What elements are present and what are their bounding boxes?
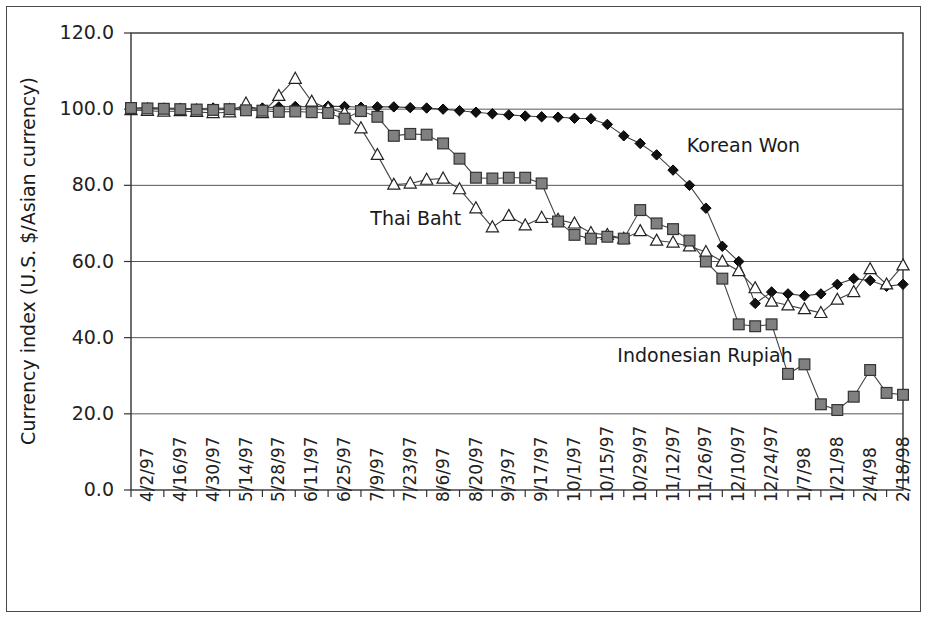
- data-point-square: [421, 129, 432, 140]
- y-axis-tick-label: 80.0: [40, 173, 114, 195]
- data-point-square: [684, 235, 695, 246]
- data-point-square: [503, 172, 514, 183]
- x-axis-tick-label: 5/14/97: [236, 436, 256, 502]
- data-point-square: [668, 224, 679, 235]
- data-point-diamond: [602, 119, 612, 129]
- data-point-diamond: [849, 273, 859, 283]
- data-point-diamond: [520, 111, 530, 121]
- data-point-triangle: [371, 148, 383, 159]
- y-axis-tick-label: 60.0: [40, 250, 114, 272]
- y-axis-title: Currency index (U.S. $/Asian currency): [17, 51, 39, 471]
- x-axis-tick-label: 12/10/97: [728, 426, 748, 502]
- data-point-diamond: [635, 138, 645, 148]
- data-point-square: [438, 138, 449, 149]
- data-point-diamond: [865, 275, 875, 285]
- data-point-diamond: [389, 102, 399, 112]
- data-point-diamond: [372, 102, 382, 112]
- data-point-square: [651, 218, 662, 229]
- data-point-square: [848, 391, 859, 402]
- data-point-square: [372, 111, 383, 122]
- data-point-square: [536, 178, 547, 189]
- data-point-square: [832, 405, 843, 416]
- x-axis-tick-label: 7/23/97: [400, 436, 420, 502]
- data-point-triangle: [897, 259, 909, 270]
- data-point-square: [783, 368, 794, 379]
- data-point-square: [339, 113, 350, 124]
- data-point-square: [158, 103, 169, 114]
- data-point-square: [290, 106, 301, 117]
- data-point-diamond: [471, 107, 481, 117]
- data-point-square: [142, 103, 153, 114]
- data-point-square: [586, 233, 597, 244]
- series-annotation-indonesian-rupiah: Indonesian Rupiah: [617, 344, 792, 366]
- x-axis-tick-label: 8/6/97: [433, 447, 453, 502]
- data-point-diamond: [438, 104, 448, 114]
- data-point-square: [799, 359, 810, 370]
- data-point-diamond: [454, 105, 464, 115]
- data-point-square: [520, 172, 531, 183]
- data-point-square: [618, 233, 629, 244]
- series-annotation-thai-baht: Thai Baht: [370, 207, 461, 229]
- x-axis-tick-label: 7/9/97: [367, 447, 387, 502]
- data-point-triangle: [306, 95, 318, 106]
- data-point-square: [700, 256, 711, 267]
- data-point-diamond: [586, 113, 596, 123]
- data-point-square: [454, 153, 465, 164]
- x-axis-tick-label: 11/12/97: [663, 426, 683, 502]
- data-point-square: [388, 130, 399, 141]
- series-annotation-korean-won: Korean Won: [687, 134, 800, 156]
- x-axis-tick-label: 9/17/97: [531, 436, 551, 502]
- data-point-square: [175, 104, 186, 115]
- data-point-diamond: [421, 103, 431, 113]
- data-point-square: [191, 104, 202, 115]
- data-point-triangle: [766, 295, 778, 306]
- x-axis-tick-label: 8/20/97: [466, 436, 486, 502]
- data-point-triangle: [503, 209, 515, 220]
- x-axis-tick-label: 4/30/97: [203, 436, 223, 502]
- data-point-square: [733, 319, 744, 330]
- data-point-square: [569, 229, 580, 240]
- data-point-square: [602, 231, 613, 242]
- data-point-diamond: [898, 279, 908, 289]
- data-point-square: [815, 399, 826, 410]
- data-point-square: [487, 173, 498, 184]
- y-axis-tick-label: 100.0: [40, 97, 114, 119]
- y-axis-tick-label: 120.0: [40, 21, 114, 43]
- x-axis-tick-label: 4/2/97: [137, 447, 157, 502]
- data-point-square: [273, 106, 284, 117]
- data-point-triangle: [848, 286, 860, 297]
- series-korean-won: [126, 101, 908, 309]
- x-axis-tick-label: 2/18/98: [893, 436, 913, 502]
- x-axis-tick-label: 9/3/97: [498, 447, 518, 502]
- data-point-diamond: [799, 291, 809, 301]
- data-point-diamond: [536, 112, 546, 122]
- data-point-triangle: [831, 293, 843, 304]
- data-point-diamond: [750, 298, 760, 308]
- data-point-diamond: [405, 102, 415, 112]
- data-point-triangle: [355, 122, 367, 133]
- data-point-square: [306, 107, 317, 118]
- x-axis-tick-label: 12/24/97: [761, 426, 781, 502]
- data-point-triangle: [519, 219, 531, 230]
- x-axis-tick-label: 4/16/97: [170, 436, 190, 502]
- data-point-square: [898, 389, 909, 400]
- data-point-triangle: [716, 255, 728, 266]
- x-axis-tick-label: 1/7/98: [794, 447, 814, 502]
- data-point-triangle: [651, 234, 663, 245]
- data-point-square: [208, 105, 219, 116]
- x-axis-tick-label: 10/1/97: [564, 436, 584, 502]
- data-point-triangle: [388, 178, 400, 189]
- data-point-square: [126, 103, 137, 114]
- data-point-square: [257, 105, 268, 116]
- x-axis-tick-label: 6/11/97: [301, 436, 321, 502]
- y-axis-tick-label: 0.0: [40, 478, 114, 500]
- data-point-triangle: [421, 173, 433, 184]
- data-point-square: [224, 104, 235, 115]
- x-axis-tick-label: 6/25/97: [334, 436, 354, 502]
- data-point-diamond: [504, 110, 514, 120]
- data-point-diamond: [816, 289, 826, 299]
- x-axis-tick-label: 11/26/97: [695, 426, 715, 502]
- x-axis-tick-label: 10/15/97: [597, 426, 617, 502]
- data-point-diamond: [783, 289, 793, 299]
- data-point-square: [323, 108, 334, 119]
